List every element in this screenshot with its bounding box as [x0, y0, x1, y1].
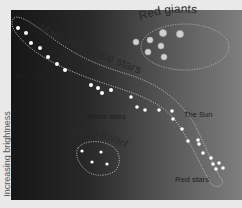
the-sun-label: The Sun: [184, 110, 212, 119]
red-giants-title: Red giants: [137, 2, 198, 23]
main-sequence-stars: [16, 26, 225, 171]
main-sequence-outline: [12, 17, 223, 186]
hr-diagram: Red giants Main sequence stars White dwa…: [0, 0, 242, 208]
yellow-stars-label: Yellow stars: [86, 112, 126, 121]
white-dwarfs-outline: [77, 142, 120, 176]
red-giants-outline: [141, 24, 229, 70]
red-giant-stars: [133, 29, 184, 60]
white-dwarf-stars: [80, 149, 108, 165]
blue-stars-label: Blue stars: [15, 71, 51, 80]
main-sequence-title: Main sequence stars: [37, 20, 144, 77]
red-stars-label: Red stars: [175, 175, 209, 184]
